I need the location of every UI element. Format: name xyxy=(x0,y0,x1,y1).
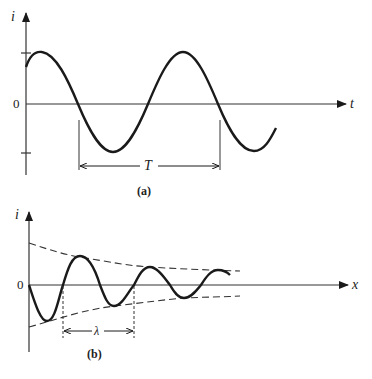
caption-b: (b) xyxy=(87,347,102,361)
origin-label-a: 0 xyxy=(13,96,20,111)
damped-wave-curve xyxy=(29,256,230,321)
x-axis-label-a: t xyxy=(350,96,355,111)
y-axis-label-b: i xyxy=(15,207,19,222)
wavelength-label: λ xyxy=(93,324,99,338)
y-axis-label-a: i xyxy=(11,9,15,24)
origin-label-b: 0 xyxy=(17,277,24,292)
envelope-upper xyxy=(29,243,240,271)
period-label: T xyxy=(144,158,153,173)
caption-a: (a) xyxy=(137,184,151,198)
panel-a: i t 0 T (a) xyxy=(11,9,355,198)
sine-wave-curve xyxy=(26,52,276,152)
x-axis-label-b: x xyxy=(351,277,359,292)
figure-canvas: i t 0 T (a) i x 0 λ (b) xyxy=(0,0,372,379)
panel-b: i x 0 λ (b) xyxy=(15,207,359,361)
